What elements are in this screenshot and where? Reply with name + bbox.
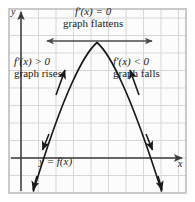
x-axis-label: x bbox=[178, 158, 182, 169]
plot-canvas bbox=[0, 0, 195, 202]
derivative-sign-diagram: y x f′(x) = 0 graph flattens f′(x) > 0 g… bbox=[0, 0, 195, 202]
annotation-falls: f′(x) < 0 graph falls bbox=[113, 56, 160, 80]
annotation-falls-line2: graph falls bbox=[113, 68, 160, 80]
plot-background bbox=[9, 9, 186, 193]
annotation-rises-line2: graph rises bbox=[14, 68, 62, 80]
curve-label: y = f(x) bbox=[39, 156, 72, 168]
y-axis-label: y bbox=[11, 6, 15, 17]
annotation-flatten-line2: graph flattens bbox=[63, 18, 123, 30]
annotation-flatten: f′(x) = 0 graph flattens bbox=[63, 6, 123, 30]
annotation-rises: f′(x) > 0 graph rises bbox=[14, 56, 62, 80]
